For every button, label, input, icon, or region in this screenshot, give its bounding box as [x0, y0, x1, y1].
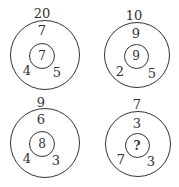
right-number: 3	[46, 154, 66, 167]
center-number: 8	[32, 138, 52, 150]
top-number: 9	[31, 96, 51, 109]
upper-number: 9	[126, 27, 146, 40]
left-number: 4	[17, 152, 37, 165]
unknown-center-number: ?	[127, 140, 147, 152]
upper-number: 7	[32, 24, 52, 37]
figure-4: 7 3 ? 7 3	[89, 93, 179, 186]
left-number: 4	[17, 64, 37, 77]
right-number: 5	[142, 67, 162, 80]
figure-3: 9 6 8 4 3	[0, 93, 90, 186]
left-number: 7	[111, 153, 131, 166]
center-number: 9	[126, 50, 146, 62]
right-number: 3	[141, 155, 161, 168]
center-number: 7	[32, 50, 52, 62]
top-number: 7	[127, 98, 147, 111]
top-number: 20	[32, 7, 52, 20]
upper-number: 6	[31, 113, 51, 126]
figure-2: 10 9 9 2 5	[89, 0, 179, 93]
figure-1: 20 7 7 4 5	[0, 0, 90, 93]
right-number: 5	[47, 66, 67, 79]
top-number: 10	[124, 9, 144, 22]
upper-number: 3	[127, 117, 147, 130]
left-number: 2	[110, 65, 130, 78]
